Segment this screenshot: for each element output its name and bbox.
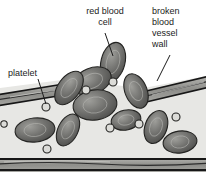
platelet <box>82 86 90 94</box>
platelet <box>106 124 114 132</box>
platelet <box>172 113 180 121</box>
label-broken-blood-vessel-wall: broken blood vessel wall <box>152 6 202 50</box>
platelet <box>1 121 7 127</box>
platelet <box>109 78 117 86</box>
blood-vessel-diagram: red blood cell broken blood vessel wall … <box>0 0 206 177</box>
label-red-blood-cell: red blood cell <box>74 6 136 28</box>
label-platelet: platelet <box>8 68 66 79</box>
lower-wall-segment <box>0 158 206 172</box>
platelet <box>43 145 51 153</box>
platelet <box>135 120 143 128</box>
platelet <box>42 103 50 111</box>
